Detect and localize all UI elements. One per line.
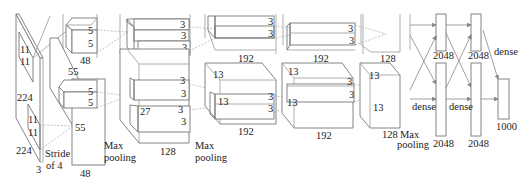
conv1-kernel-top-2: 5 [88,38,93,49]
input-depth-label: 3 [36,164,41,175]
conv1-pool-label-1: Max [104,140,124,151]
conv4-depth-bot: 192 [316,130,332,141]
input-width-label: 224 [16,145,33,156]
conv3-size-side: 13 [218,96,229,107]
conv2-depth-bot: 128 [160,146,176,157]
conv5-depth-top: 128 [380,53,396,64]
fc8-output-label: 1000 [496,121,517,132]
fc7-bot-label: 2048 [468,138,489,149]
conv2-pool-label-1: Max [195,140,215,151]
conv4-depth-top: 192 [313,53,329,64]
conv2-k6b: 3 [181,116,186,127]
fc7-top-label: 2048 [468,50,489,61]
conv1-pool-label-2: pooling [104,152,137,163]
conv4-size-top: 13 [288,66,299,77]
conv3-k1: 3 [268,16,273,27]
fc6-top-label: 2048 [433,50,454,61]
conv2-pool-label-2: pooling [195,152,228,163]
stride-label-2: of 4 [46,160,63,171]
conv2-k2: 3 [181,30,186,41]
fc6-dense-label: dense [412,101,436,112]
conv4-k2: 3 [349,35,354,46]
input-kernel-bot-label: 11 [28,114,38,125]
conv3-k4: 3 [268,103,273,114]
stride-label-1: Stride [45,148,70,159]
fc8-dense-label: dense [494,46,518,57]
fc7-dense-label: dense [449,101,473,112]
conv5-volume: 128 13 13 128 Max pooling [360,14,430,150]
conv5-depth-bot: 128 [382,129,398,140]
conv1-size-top: 55 [68,66,79,77]
conv2-k4: 3 [180,75,185,86]
conv5-size-top: 13 [369,70,380,81]
fc6-bot-label: 2048 [433,138,454,149]
input-kernel-top-label: 11 [20,44,30,55]
conv1-depth-bot: 48 [80,168,91,179]
input-kernel-bot-label-2: 11 [28,127,38,138]
conv3-depth-bot: 192 [238,126,254,137]
conv3-k3: 3 [268,91,273,102]
conv1-size-side: 55 [75,122,86,133]
conv4-size-side: 13 [287,97,298,108]
conv5-size-side: 13 [373,102,384,113]
conv3-size-top: 13 [213,69,224,80]
conv2-k5: 3 [181,88,186,99]
conv1-kernel-bot-2: 5 [88,97,93,108]
conv1-depth-top: 48 [80,55,91,66]
input-kernel-top-label-2: 11 [20,56,30,67]
conv4-k4: 3 [349,89,354,100]
conv1-kernel-bot: 5 [88,86,93,97]
conv3-k2: 3 [268,28,273,39]
input-height-label: 224 [17,92,34,103]
conv2-k1: 3 [180,19,185,30]
alexnet-diagram: 11 11 11 11 224 224 3 Stride of 4 5 5 48… [0,0,528,183]
conv1-kernel-top: 5 [88,25,93,36]
conv2-size-bot: 27 [140,106,151,117]
conv4-k1: 3 [348,23,353,34]
conv3-depth-top: 192 [238,53,254,64]
fc-layers: 2048 2048 dense 2048 2048 dense dense 10… [410,14,518,149]
conv2-k6: 3 [178,104,183,115]
conv4-k3: 3 [347,76,352,87]
conv5-pool-label-2: pooling [397,139,430,150]
